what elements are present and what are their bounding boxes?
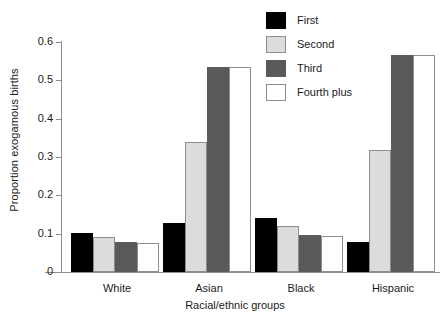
legend-item: Fourth plus bbox=[266, 80, 352, 104]
bar bbox=[277, 226, 299, 272]
bar bbox=[229, 67, 251, 272]
bar-group bbox=[347, 42, 439, 272]
y-axis-tick-mark bbox=[56, 42, 62, 43]
bar bbox=[391, 55, 413, 272]
bar-chart: Proportion exogamous births 00.10.20.30.… bbox=[0, 0, 446, 320]
x-axis-tick-label: White bbox=[71, 282, 163, 294]
y-axis-tick-label: 0 bbox=[47, 265, 53, 277]
legend-label: Fourth plus bbox=[297, 86, 352, 98]
y-axis-title: Proportion exogamous births bbox=[4, 0, 24, 280]
bar bbox=[137, 243, 159, 272]
bar-group bbox=[71, 42, 163, 272]
y-axis-tick-label: 0.3 bbox=[38, 150, 53, 162]
legend-label: First bbox=[297, 14, 318, 26]
legend-swatch bbox=[266, 12, 286, 29]
legend-label: Third bbox=[297, 62, 322, 74]
bar bbox=[321, 236, 343, 272]
bar bbox=[413, 55, 435, 272]
bar-group bbox=[163, 42, 255, 272]
bar bbox=[347, 242, 369, 272]
y-axis-tick-label: 0.5 bbox=[38, 73, 53, 85]
legend-swatch bbox=[266, 84, 286, 101]
legend-item: Third bbox=[266, 56, 352, 80]
y-axis-tick-label: 0.2 bbox=[38, 188, 53, 200]
bar bbox=[207, 67, 229, 272]
chart-legend: FirstSecondThirdFourth plus bbox=[266, 8, 352, 104]
x-axis-title-text: Racial/ethnic groups bbox=[185, 299, 285, 311]
x-axis-tick-label: Hispanic bbox=[347, 282, 439, 294]
legend-swatch bbox=[266, 36, 286, 53]
x-axis-tick-label: Asian bbox=[163, 282, 255, 294]
bar bbox=[299, 235, 321, 272]
bar-group-bars bbox=[163, 42, 255, 272]
x-axis-tick-label: Black bbox=[255, 282, 347, 294]
y-axis-title-text: Proportion exogamous births bbox=[8, 68, 20, 211]
y-axis-tick-mark bbox=[56, 119, 62, 120]
legend-item: Second bbox=[266, 32, 352, 56]
legend-swatch bbox=[266, 60, 286, 77]
y-axis-tick-mark bbox=[56, 80, 62, 81]
y-axis-tick-label: 0.6 bbox=[38, 35, 53, 47]
legend-item: First bbox=[266, 8, 352, 32]
bar bbox=[369, 150, 391, 272]
x-axis-line bbox=[45, 272, 440, 273]
y-axis-tick-mark bbox=[56, 234, 62, 235]
bar-group-bars bbox=[347, 42, 439, 272]
y-axis-tick-mark bbox=[56, 195, 62, 196]
bar bbox=[115, 242, 137, 272]
legend-label: Second bbox=[297, 38, 334, 50]
bar bbox=[93, 237, 115, 272]
x-axis-title: Racial/ethnic groups bbox=[0, 299, 446, 311]
y-axis-tick-mark bbox=[56, 272, 62, 273]
bar-group-bars bbox=[71, 42, 163, 272]
plot-area: 00.10.20.30.40.50.6 bbox=[62, 42, 440, 272]
bar bbox=[163, 223, 185, 272]
bar bbox=[255, 218, 277, 272]
y-axis-tick-label: 0.1 bbox=[38, 227, 53, 239]
bar bbox=[71, 233, 93, 272]
bar bbox=[185, 142, 207, 272]
y-axis-tick-label: 0.4 bbox=[38, 112, 53, 124]
y-axis-tick-mark bbox=[56, 157, 62, 158]
